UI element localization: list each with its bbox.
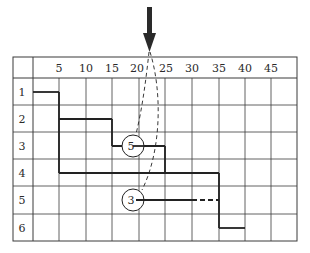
column-header-label: 20 bbox=[130, 62, 144, 75]
schedule-diagram: 51015202530354045 123456 53 bbox=[0, 0, 310, 253]
column-header-label: 25 bbox=[159, 62, 173, 75]
row-header-label: 6 bbox=[19, 222, 26, 235]
column-header-label: 45 bbox=[264, 62, 278, 75]
column-header-label: 15 bbox=[105, 62, 119, 75]
event-circle-label: 3 bbox=[128, 194, 135, 207]
grid bbox=[13, 57, 297, 241]
arrow-to-circle-3-curve bbox=[142, 52, 158, 190]
row-header-label: 5 bbox=[19, 194, 26, 207]
column-headers: 51015202530354045 bbox=[56, 62, 279, 75]
row-header-label: 1 bbox=[19, 86, 26, 99]
dashed-links bbox=[136, 52, 219, 200]
grid-border bbox=[13, 57, 297, 241]
arrow-head bbox=[143, 33, 156, 52]
row-header-label: 2 bbox=[19, 113, 26, 126]
column-header-label: 30 bbox=[185, 62, 199, 75]
down-arrow-icon bbox=[143, 7, 156, 52]
arrow-shaft bbox=[147, 7, 152, 35]
row-headers: 123456 bbox=[19, 86, 26, 235]
column-header-label: 40 bbox=[238, 62, 252, 75]
column-header-label: 10 bbox=[79, 62, 93, 75]
column-header-label: 35 bbox=[212, 62, 226, 75]
column-header-label: 5 bbox=[56, 62, 63, 75]
row-header-label: 4 bbox=[19, 167, 26, 180]
row-header-label: 3 bbox=[19, 140, 26, 153]
